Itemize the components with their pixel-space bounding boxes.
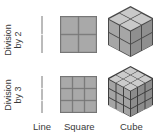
line-divided-by-2	[41, 16, 43, 53]
square-divided-by-3	[60, 76, 97, 113]
column-label-cube: Cube	[120, 121, 143, 132]
column-label-line: Line	[33, 121, 51, 132]
figures	[0, 0, 155, 136]
cube-divided-by-3	[108, 66, 153, 117]
line-divided-by-3	[41, 76, 43, 113]
column-label-square: Square	[64, 121, 95, 132]
cube-divided-by-2	[108, 6, 153, 57]
square-divided-by-2	[60, 16, 97, 53]
